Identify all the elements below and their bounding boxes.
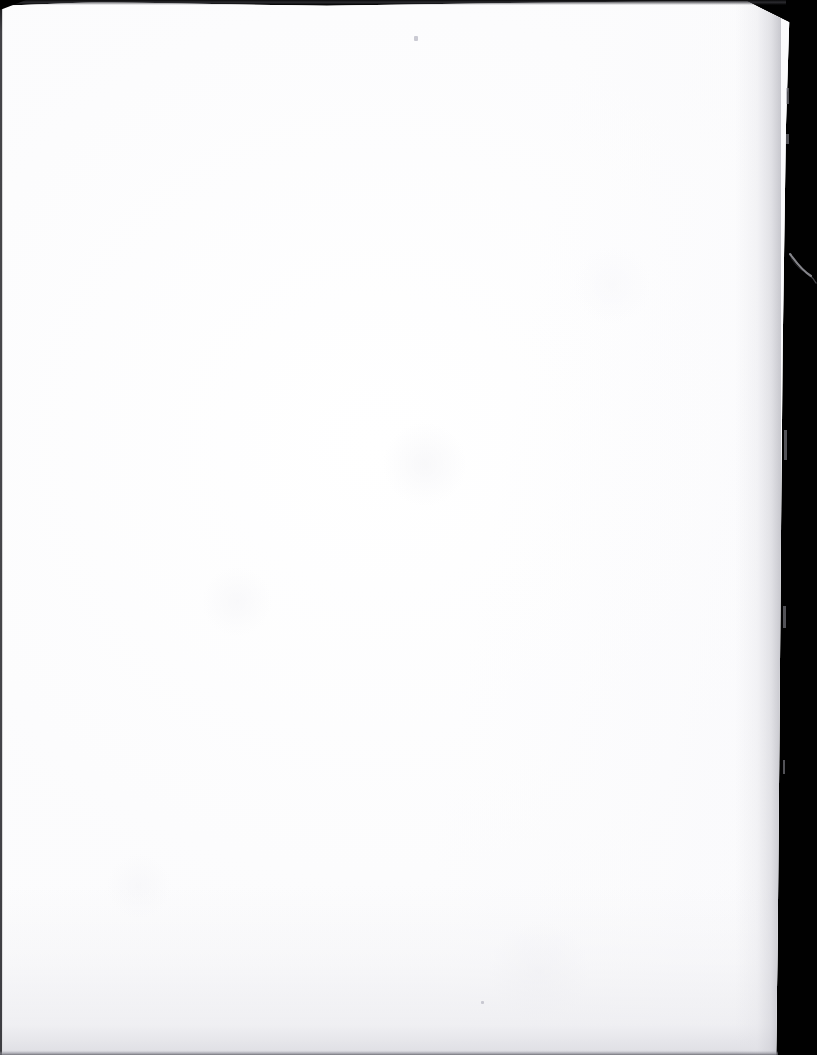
paper-tone-overlay (0, 0, 817, 1055)
paper-grain-overlay (0, 0, 817, 1055)
paper-showthrough-smudge (0, 886, 779, 1055)
paper-sheet (0, 0, 817, 1055)
paper-right-edge-shadow (735, 0, 781, 1055)
scanned-page-canvas (0, 0, 817, 1055)
